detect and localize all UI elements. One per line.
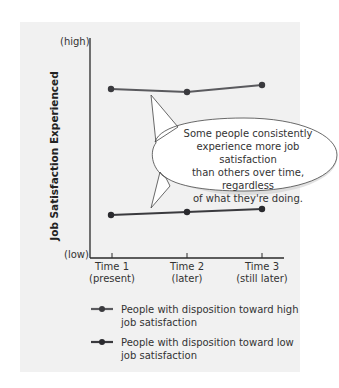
high-point-3 (259, 82, 265, 88)
legend-low-swatch-icon (89, 336, 115, 348)
low-point-1 (108, 212, 114, 218)
callout-text: Some people consistently experience more… (168, 127, 328, 205)
x-tick-label-3: Time 3(still later) (227, 261, 297, 285)
low-point-2 (184, 209, 190, 215)
low-point-3 (259, 206, 265, 212)
y-axis-low-label: (low) (64, 249, 89, 261)
y-axis-label: Job Satisfaction Experienced (48, 56, 60, 256)
y-axis-high-label: (high) (60, 36, 90, 48)
legend-item-high: People with disposition toward highjob s… (89, 303, 299, 329)
x-tick-label-1: Time 1(present) (77, 261, 147, 285)
legend-low-label: People with disposition toward lowjob sa… (121, 336, 294, 362)
legend-high-swatch-icon (89, 303, 115, 315)
high-point-1 (108, 86, 114, 92)
x-tick-label-2: Time 2(later) (152, 261, 222, 285)
high-point-2 (184, 89, 190, 95)
legend-item-low: People with disposition toward lowjob sa… (89, 336, 299, 362)
legend-high-label: People with disposition toward highjob s… (121, 303, 299, 329)
